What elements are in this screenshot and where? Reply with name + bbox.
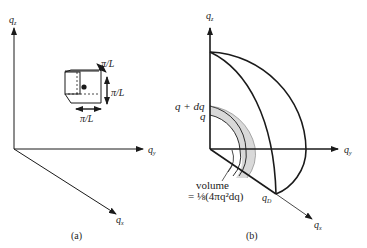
qz-axis-label: qz	[9, 14, 17, 26]
qy-axis-label: qy	[344, 144, 352, 156]
volume-formula: = ⅛(4πq²dq)	[188, 190, 244, 203]
panel-a-caption: (a)	[71, 230, 82, 242]
diagram-canvas: qz qy qx π/L π/L	[0, 0, 367, 248]
qx-axis	[14, 149, 116, 214]
qz-axis-label: qz	[206, 10, 214, 22]
panel-b-caption: (b)	[246, 230, 258, 242]
cube-depth-label: π/L	[101, 58, 115, 69]
cube-width-label: π/L	[80, 113, 94, 124]
debye-wavevector-label: qD	[262, 192, 272, 204]
panel-a: qz qy qx π/L π/L	[9, 14, 156, 242]
qx-axis-label: qx	[314, 219, 322, 231]
qx-axis-label: qx	[116, 214, 124, 226]
qy-axis-label: qy	[148, 144, 156, 156]
outer-arc-qz-qy	[210, 52, 306, 194]
cube-height-label: π/L	[111, 87, 125, 98]
qx-axis	[276, 194, 312, 219]
panel-b: qz qy qx q + dq q volume = ⅛(4πq²dq) qD …	[175, 10, 352, 242]
lattice-point	[81, 84, 86, 89]
shell-inner-label: q	[200, 110, 206, 122]
